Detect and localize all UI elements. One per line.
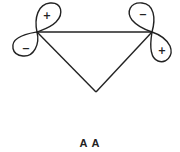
left-bond xyxy=(37,32,96,92)
orbital-diagram: + − − + xyxy=(0,0,180,152)
left-lower-sign: − xyxy=(22,43,30,54)
left-upper-sign: + xyxy=(43,10,51,21)
right-bond xyxy=(96,32,152,92)
right-upper-sign: − xyxy=(139,9,147,20)
right-lower-sign: + xyxy=(158,45,166,56)
symmetry-label: A A xyxy=(0,137,180,149)
